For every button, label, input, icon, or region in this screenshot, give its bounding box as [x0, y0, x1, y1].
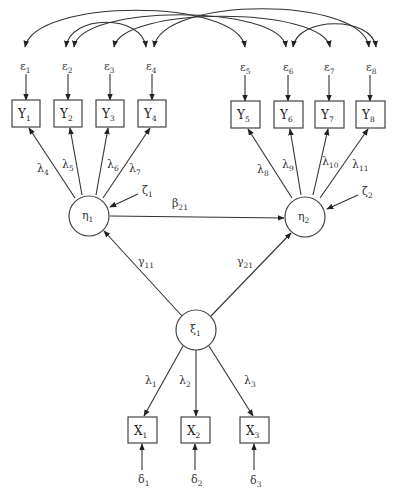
box-x3: X3 — [240, 417, 269, 443]
arc-e2-e6 — [74, 15, 286, 47]
epsilon-to-y-arrows — [26, 74, 370, 101]
latent-eta2: η2 — [285, 197, 325, 237]
delta-3: δ3 — [250, 474, 262, 489]
beta-21-path — [110, 216, 284, 218]
y-indicator-boxes: Y1 Y2 Y3 Y4 Y5 Y6 Y7 Y8 — [12, 100, 385, 128]
lambda-9: λ9 — [282, 158, 294, 173]
epsilon-2: ε2 — [62, 60, 73, 75]
epsilon-6: ε6 — [283, 61, 294, 76]
lambda-3: λ3 — [244, 374, 256, 389]
latent-xi1: ξ1 — [176, 310, 216, 350]
lambda-5: λ5 — [62, 158, 74, 173]
box-y5: Y5 — [231, 101, 260, 128]
epsilon-5: ε5 — [240, 61, 251, 76]
epsilon-7: ε7 — [324, 61, 335, 76]
box-y1: Y1 — [12, 100, 40, 127]
epsilon-3: ε3 — [104, 60, 115, 75]
box-x2: X2 — [181, 417, 210, 443]
zeta-1: ζ1 — [142, 184, 153, 199]
sem-diagram: ε1 ε2 ε3 ε4 ε5 ε6 ε7 ε8 Y1 Y2 Y3 Y4 Y5 Y… — [0, 0, 395, 495]
gamma-11-path — [104, 231, 182, 316]
epsilon-1: ε1 — [20, 60, 30, 75]
epsilon-labels: ε1 ε2 ε3 ε4 ε5 ε6 ε7 ε8 — [20, 60, 377, 76]
box-y6: Y6 — [274, 101, 303, 128]
gamma-11-label: γ11 — [138, 255, 154, 270]
lambda-1: λ1 — [145, 374, 157, 389]
epsilon-8: ε8 — [366, 61, 377, 76]
gamma-21-label: γ21 — [237, 255, 253, 270]
box-y3: Y3 — [96, 100, 124, 127]
zeta-2: ζ2 — [362, 185, 373, 200]
eta2-loading-arrows — [248, 129, 368, 198]
box-x1: X1 — [128, 417, 157, 443]
eta1-loading-labels: λ4 λ5 λ6 λ7 — [37, 158, 141, 177]
gamma-21-path — [211, 233, 291, 316]
box-y7: Y7 — [315, 101, 344, 128]
lambda-7: λ7 — [129, 162, 141, 177]
lambda-10: λ10 — [322, 155, 339, 170]
lambda-4: λ4 — [37, 162, 49, 177]
error-correlation-arcs — [25, 9, 376, 47]
lambda-11: λ11 — [352, 158, 369, 173]
eta2-loading-labels: λ8 λ9 λ10 λ11 — [257, 155, 369, 178]
latent-eta1: η1 — [69, 196, 109, 236]
lambda-6: λ6 — [107, 158, 119, 173]
delta-2: δ2 — [191, 473, 203, 488]
lambda-2: λ2 — [179, 374, 191, 389]
beta-21-label: β21 — [172, 197, 188, 212]
delta-arrows — [142, 444, 254, 470]
x-indicator-boxes: X1 X2 X3 — [128, 417, 269, 443]
box-y4: Y4 — [138, 100, 166, 127]
lambda-8: λ8 — [257, 163, 269, 178]
box-y2: Y2 — [54, 100, 82, 127]
xi-loading-arrows — [144, 346, 253, 416]
epsilon-4: ε4 — [146, 60, 157, 75]
arc-e3-e7 — [114, 16, 330, 47]
delta-1: δ1 — [138, 473, 149, 488]
box-y8: Y8 — [356, 101, 385, 128]
arc-e2-e4 — [66, 22, 146, 47]
